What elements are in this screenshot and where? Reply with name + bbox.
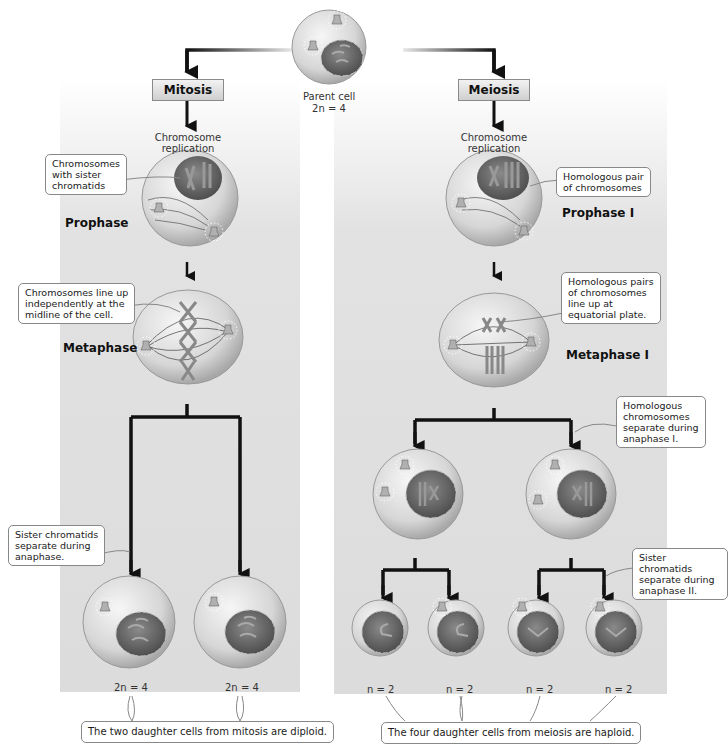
meiosis-daughter-ploidy-4: n = 2 xyxy=(605,684,632,695)
parent-cell xyxy=(292,10,366,84)
callout-homologous-pair: Homologous pair of chromosomes xyxy=(556,167,651,197)
meiosis-daughter-cell-4 xyxy=(586,598,642,656)
prophase-1-label: Prophase I xyxy=(562,206,634,220)
meiosis-prophase-1-cell xyxy=(446,150,542,246)
mitosis-replication-label: Chromosome replication xyxy=(150,132,226,154)
meiosis-daughter-cell-3 xyxy=(508,598,564,656)
meiosis-replication-label: Chromosome replication xyxy=(456,132,532,154)
meiosis-label-box: Meiosis xyxy=(458,79,530,101)
callout-sister-chromatids: Chromosomes with sister chromatids xyxy=(45,154,127,195)
mitosis-daughter-ploidy-1: 2n = 4 xyxy=(114,682,148,693)
callout-anaphase: Sister chromatids separate during anapha… xyxy=(8,525,105,566)
arrow-to-meiosis xyxy=(403,50,494,72)
callout-equatorial-plate: Homologous pairs of chromosomes line up … xyxy=(561,272,661,324)
mitosis-label-box: Mitosis xyxy=(152,79,224,101)
callout-midline: Chromosomes line up independently at the… xyxy=(18,283,135,324)
parent-cell-ploidy: 2n = 4 xyxy=(303,103,355,114)
meiosis-1-daughter-cell-2 xyxy=(526,449,616,539)
metaphase-1-label: Metaphase I xyxy=(566,348,649,362)
meiosis-daughter-cell-1 xyxy=(352,600,408,656)
diagram-graphics xyxy=(0,0,728,755)
metaphase-label: Metaphase xyxy=(63,341,137,355)
prophase-label: Prophase xyxy=(65,216,128,230)
mitosis-daughter-cell-1 xyxy=(83,576,175,668)
meiosis-daughter-cell-2 xyxy=(428,598,484,656)
mitosis-summary: The two daughter cells from mitosis are … xyxy=(81,721,334,743)
meiosis-daughter-ploidy-1: n = 2 xyxy=(367,684,394,695)
meiosis-1-daughter-cell-1 xyxy=(373,449,463,539)
mitosis-daughter-cell-2 xyxy=(194,576,286,668)
callout-anaphase-1: Homologous chromosomes separate during a… xyxy=(616,396,706,448)
mitosis-daughter-ploidy-2: 2n = 4 xyxy=(225,682,259,693)
mitosis-prophase-cell xyxy=(142,150,238,246)
meiosis-daughter-ploidy-2: n = 2 xyxy=(446,684,473,695)
arrow-to-mitosis xyxy=(187,50,292,72)
parent-cell-label: Parent cell xyxy=(303,91,355,102)
meiosis-summary: The four daughter cells from meiosis are… xyxy=(381,722,641,744)
callout-anaphase-2: Sister chromatids separate during anapha… xyxy=(632,548,728,600)
meiosis-metaphase-1-cell xyxy=(439,293,549,387)
meiosis-daughter-ploidy-3: n = 2 xyxy=(526,684,553,695)
